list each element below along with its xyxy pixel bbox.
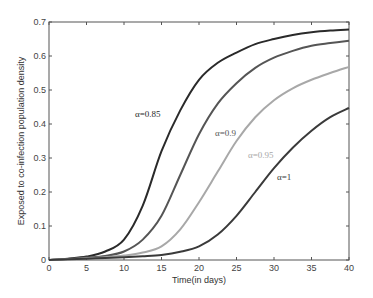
x-tick-label: 35 — [306, 263, 316, 273]
x-tick-label: 15 — [156, 263, 166, 273]
y-axis-label: Exposed to co-infection population densi… — [16, 56, 26, 225]
plot-frame — [49, 22, 349, 260]
y-tick-label: 0.1 — [33, 221, 46, 231]
x-tick-label: 30 — [269, 263, 279, 273]
y-tick-label: 0.6 — [33, 51, 46, 61]
series-label: α=0.85 — [135, 109, 161, 119]
y-tick-label: 0.5 — [33, 85, 46, 95]
y-tick-label: 0 — [41, 255, 46, 265]
plot-area — [49, 22, 349, 260]
line-chart: 0510152025303540 00.10.20.30.40.50.60.7 … — [0, 0, 373, 298]
x-tick-label: 40 — [344, 263, 354, 273]
x-tick-label: 0 — [46, 263, 51, 273]
x-tick-label: 10 — [119, 263, 129, 273]
y-tick-label: 0.4 — [33, 119, 46, 129]
x-axis-label: Time(in days) — [172, 275, 226, 285]
x-tick-label: 25 — [231, 263, 241, 273]
x-tick-label: 5 — [84, 263, 89, 273]
y-tick-label: 0.3 — [33, 153, 46, 163]
series-label: α=0.95 — [248, 150, 274, 160]
series-label: α=0.9 — [215, 128, 237, 138]
y-tick-label: 0.7 — [33, 17, 46, 27]
x-tick-label: 20 — [194, 263, 204, 273]
series-label: α=1 — [277, 172, 291, 182]
y-tick-label: 0.2 — [33, 187, 46, 197]
